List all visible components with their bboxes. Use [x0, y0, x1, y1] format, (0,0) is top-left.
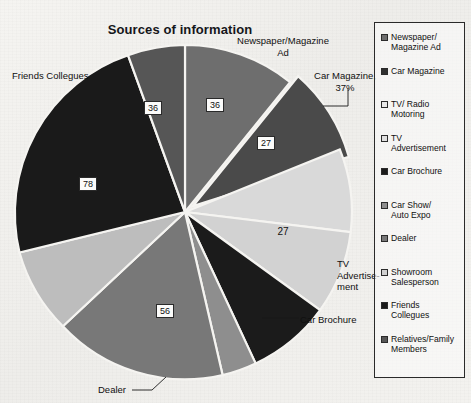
slice-value-relatives-family-members: 36: [144, 101, 162, 115]
legend-swatch-icon: [381, 269, 388, 276]
legend-item-car-brochure[interactable]: Car Brochure: [381, 166, 464, 200]
slice-value-friends-collegues: 78: [79, 177, 97, 191]
legend-item-friends-collegues[interactable]: Friends Collegues: [381, 300, 464, 334]
legend-swatch-icon: [381, 68, 388, 75]
legend-item-label: Friends Collegues: [391, 300, 429, 321]
pie-chart-figure: Sources of information: [0, 0, 471, 403]
legend-swatch-icon: [381, 302, 388, 309]
legend-item-label: Relatives/Family Members: [391, 334, 454, 355]
chart-legend: Newspaper/ Magazine Ad Car Magazine TV/ …: [374, 22, 465, 378]
legend-item-label: TV Advertisement: [391, 133, 446, 154]
legend-item-label: Showroom Salesperson: [391, 267, 439, 288]
legend-swatch-icon: [381, 135, 388, 142]
slice-value-dealer: 56: [156, 304, 174, 318]
slice-value-tv-radio-motoring: 27: [277, 227, 288, 237]
legend-swatch-icon: [381, 336, 388, 343]
legend-swatch-icon: [381, 101, 388, 108]
legend-item-label: Dealer: [391, 233, 416, 243]
callout-newspaper-magazine-ad: Newspaper/Magazine Ad: [229, 35, 337, 58]
legend-swatch-icon: [381, 202, 388, 209]
callout-friends-collegues: Friends Collegues: [12, 70, 117, 82]
legend-item-label: Car Show/ Auto Expo: [391, 200, 431, 221]
legend-item-tv-radio-motoring[interactable]: TV/ Radio Motoring: [381, 99, 464, 133]
callout-tv-advertisement: TV Advertise- ment: [337, 258, 377, 293]
legend-swatch-icon: [381, 34, 388, 41]
legend-item-tv-advertisement[interactable]: TV Advertisement: [381, 133, 464, 167]
legend-item-dealer[interactable]: Dealer: [381, 233, 464, 267]
legend-item-showroom-salesperson[interactable]: Showroom Salesperson: [381, 267, 464, 301]
pie-slices: [15, 45, 352, 379]
legend-item-newspaper-magazine-ad[interactable]: Newspaper/ Magazine Ad: [381, 32, 464, 66]
legend-item-label: Car Brochure: [391, 166, 442, 176]
legend-item-car-show-auto-expo[interactable]: Car Show/ Auto Expo: [381, 200, 464, 234]
legend-item-label: Newspaper/ Magazine Ad: [391, 32, 441, 53]
legend-swatch-icon: [381, 235, 388, 242]
slice-value-car-magazine: 27: [257, 136, 275, 150]
legend-item-label: Car Magazine: [391, 66, 445, 76]
legend-item-label: TV/ Radio Motoring: [391, 99, 429, 120]
legend-item-car-magazine[interactable]: Car Magazine: [381, 66, 464, 100]
legend-item-relatives-family-members[interactable]: Relatives/Family Members: [381, 334, 464, 368]
callout-dealer: Dealer: [98, 384, 148, 396]
slice-value-newspaper-magazine-ad: 36: [206, 98, 224, 112]
callout-car-brochure: Car Brochure: [300, 314, 372, 326]
legend-swatch-icon: [381, 168, 388, 175]
